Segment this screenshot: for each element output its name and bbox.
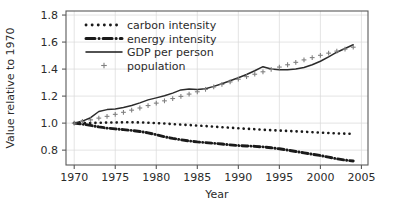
y-tick-label: 0.8 [41, 144, 59, 157]
x-tick-label: 1985 [183, 171, 211, 184]
x-tick-label: 1975 [101, 171, 129, 184]
x-tick-label: 1990 [224, 171, 252, 184]
chart-figure: 197019751980198519901995200020050.81.01.… [0, 0, 395, 212]
plot-background [66, 11, 368, 165]
legend-label: carbon intensity [127, 19, 217, 32]
x-tick-label: 1980 [142, 171, 170, 184]
y-tick-label: 1.4 [41, 63, 59, 76]
legend-label: population [127, 60, 186, 73]
x-tick-label: 1995 [265, 171, 293, 184]
x-tick-label: 1970 [60, 171, 88, 184]
line-chart-svg: 197019751980198519901995200020050.81.01.… [0, 0, 395, 212]
y-tick-label: 1.2 [41, 90, 59, 103]
x-tick-label: 2000 [306, 171, 334, 184]
y-tick-label: 1.8 [41, 9, 59, 22]
x-axis-title: Year [204, 188, 229, 201]
y-tick-label: 1.6 [41, 36, 59, 49]
legend-label: energy intensity [127, 33, 217, 46]
legend-label: GDP per person [127, 46, 214, 59]
y-axis-title: Value relative to 1970 [4, 27, 17, 148]
y-tick-label: 1.0 [41, 117, 59, 130]
x-tick-label: 2005 [347, 171, 375, 184]
